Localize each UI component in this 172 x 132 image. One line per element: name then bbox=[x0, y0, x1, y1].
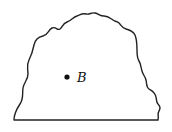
point-b-dot bbox=[64, 74, 69, 79]
diagram-canvas: B bbox=[0, 0, 172, 132]
point-b-label: B bbox=[76, 70, 87, 85]
wavy-region-outline bbox=[14, 13, 160, 120]
